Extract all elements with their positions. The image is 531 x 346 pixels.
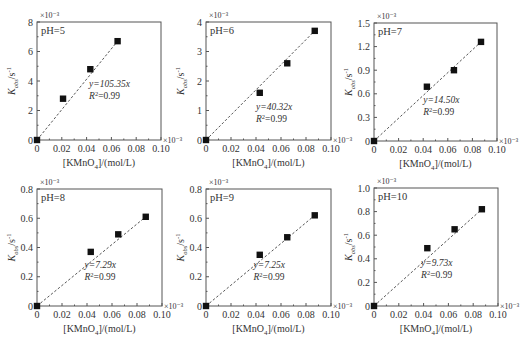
x-tick-label: 0.06 <box>272 309 290 320</box>
x-tick-label: 0.08 <box>464 309 482 320</box>
fit-equation: y=7.25x <box>253 260 286 270</box>
x-multiplier: ×10⁻³ <box>499 137 519 146</box>
fit-equation: y=9.73x <box>420 258 453 268</box>
y-tick-label: 3 <box>197 46 202 57</box>
x-tick-label: 0.02 <box>53 143 71 154</box>
data-point <box>143 214 149 220</box>
data-point <box>284 60 290 66</box>
x-tick-label: 0 <box>35 143 40 154</box>
x-tick-label: 0.04 <box>415 309 433 320</box>
y-multiplier: ×10⁻³ <box>40 11 60 20</box>
x-tick-label: 0 <box>372 309 377 320</box>
y-tick-label: 1 <box>197 105 202 116</box>
figure-grid: 00.020.040.060.080.1002468×10⁻³×10⁻³pH=5… <box>0 0 531 346</box>
fit-equation: y=105.35x <box>88 79 131 89</box>
x-tick-label: 0.02 <box>53 309 71 320</box>
x-axis-label: [KMnO4]/(mol/L) <box>232 157 304 171</box>
data-point <box>34 137 40 143</box>
fit-r2: R2=0.99 <box>422 106 454 117</box>
data-point <box>424 84 430 90</box>
data-point <box>371 303 377 309</box>
plot-frame <box>206 189 331 306</box>
chart-panel-4: 00.020.040.060.080.1000.20.40.60.8×10⁻³×… <box>5 178 184 337</box>
x-tick-label: 0.08 <box>297 143 315 154</box>
y-tick-label: 0.8 <box>190 184 203 195</box>
fit-line <box>374 42 481 141</box>
fit-r2: R2=0.99 <box>253 271 285 282</box>
x-tick-label: 0.06 <box>440 309 458 320</box>
x-tick-label: 0.04 <box>78 143 96 154</box>
y-tick-label: 0.4 <box>190 242 203 253</box>
y-tick-label: 0.4 <box>21 242 34 253</box>
y-tick-label: 0.3 <box>358 112 371 123</box>
data-point <box>478 39 484 45</box>
x-multiplier: ×10⁻³ <box>163 136 183 145</box>
y-tick-label: 0.4 <box>358 253 371 264</box>
chart-panel-2: 00.020.040.060.080.1001234×10⁻³×10⁻³pH=6… <box>174 11 353 171</box>
y-tick-label: 6 <box>28 46 33 57</box>
x-tick-label: 0.06 <box>103 143 121 154</box>
x-tick-label: 0.04 <box>247 309 265 320</box>
x-axis-label: [KMnO4]/(mol/L) <box>63 323 135 337</box>
x-multiplier: ×10⁻³ <box>164 302 184 311</box>
y-tick-label: 1.5 <box>358 18 371 29</box>
x-tick-label: 0.02 <box>390 144 408 155</box>
x-tick-label: 0 <box>372 144 377 155</box>
data-point <box>424 245 430 251</box>
chart-panel-6: 00.020.040.060.080.1000.20.40.60.81.0×10… <box>342 177 520 337</box>
x-tick-label: 0.08 <box>464 144 482 155</box>
y-tick-label: 0 <box>365 136 370 147</box>
fit-equation: y=14.50x <box>422 95 460 105</box>
y-tick-label: 4 <box>197 17 202 28</box>
data-point <box>34 303 40 309</box>
data-point <box>60 96 66 102</box>
x-tick-label: 0 <box>204 309 209 320</box>
x-tick-label: 0.08 <box>128 309 146 320</box>
chart-panel-1: 00.020.040.060.080.1002468×10⁻³×10⁻³pH=5… <box>5 11 183 171</box>
y-tick-label: 0.6 <box>21 213 34 224</box>
y-axis-label: Kobs/s-1 <box>342 233 356 262</box>
panel-ph-label: pH=8 <box>41 192 65 203</box>
y-tick-label: 0.6 <box>358 230 371 241</box>
y-tick-label: 2 <box>28 105 33 116</box>
y-axis-label: Kobs/s-1 <box>174 67 188 96</box>
y-tick-label: 0.9 <box>358 65 371 76</box>
y-multiplier: ×10⁻³ <box>377 177 397 186</box>
y-tick-label: 1.0 <box>358 183 371 194</box>
data-point <box>88 249 94 255</box>
x-tick-label: 0.08 <box>297 309 315 320</box>
x-tick-label: 0.04 <box>247 143 265 154</box>
y-tick-label: 0 <box>197 301 202 312</box>
y-multiplier: ×10⁻³ <box>209 178 229 187</box>
y-tick-label: 4 <box>28 76 33 87</box>
data-point <box>114 38 120 44</box>
x-multiplier: ×10⁻³ <box>333 302 353 311</box>
y-tick-label: 0 <box>28 135 33 146</box>
x-tick-label: 0.04 <box>78 309 96 320</box>
data-point <box>371 138 377 144</box>
x-axis-label: [KMnO4]/(mol/L) <box>399 158 471 172</box>
x-tick-label: 0.06 <box>103 309 121 320</box>
panel-ph-label: pH=9 <box>210 192 234 203</box>
x-tick-label: 0.02 <box>390 309 408 320</box>
x-tick-label: 0.06 <box>439 144 457 155</box>
chart-panel-5: 00.020.040.060.080.1000.20.40.60.8×10⁻³×… <box>174 178 353 337</box>
y-multiplier: ×10⁻³ <box>377 12 397 21</box>
x-tick-label: 0.06 <box>272 143 290 154</box>
y-tick-label: 8 <box>28 17 33 28</box>
x-axis-label: [KMnO4]/(mol/L) <box>232 323 304 337</box>
y-tick-label: 0.8 <box>358 206 371 217</box>
y-multiplier: ×10⁻³ <box>40 178 60 187</box>
panel-ph-label: pH=6 <box>210 25 234 36</box>
y-tick-label: 0 <box>365 301 370 312</box>
data-point <box>451 67 457 73</box>
x-axis-label: [KMnO4]/(mol/L) <box>400 323 472 337</box>
y-axis-label: Kobs/s-1 <box>342 68 356 97</box>
y-tick-label: 2 <box>197 76 202 87</box>
fit-r2: R2=0.99 <box>255 113 287 124</box>
x-tick-label: 0.02 <box>222 309 240 320</box>
y-tick-label: 0.8 <box>21 184 34 195</box>
x-tick-label: 0 <box>35 309 40 320</box>
x-multiplier: ×10⁻³ <box>333 136 353 145</box>
y-tick-label: 0.2 <box>190 271 203 282</box>
